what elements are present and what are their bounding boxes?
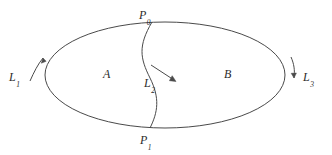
figure-container: P0 P1 L1 L2 L3 A B bbox=[0, 0, 332, 155]
curve-l1-subscript: 1 bbox=[16, 80, 20, 89]
l2-arrow-line bbox=[151, 65, 174, 80]
curve-label-l1: L1 bbox=[9, 68, 19, 87]
curve-l2-base: L bbox=[144, 76, 151, 90]
point-p1-subscript: 1 bbox=[148, 143, 152, 152]
curve-l3-base: L bbox=[303, 70, 310, 84]
point-p0-base: P bbox=[139, 8, 146, 22]
point-p1-base: P bbox=[140, 133, 147, 147]
point-label-p1: P1 bbox=[140, 131, 151, 150]
region-label-a: A bbox=[103, 68, 110, 80]
ellipse-boundary bbox=[45, 22, 285, 128]
l3-arrowhead-icon bbox=[291, 73, 296, 78]
curve-l1-base: L bbox=[9, 70, 16, 84]
curve-l3-subscript: 3 bbox=[310, 80, 314, 89]
diagram-canvas bbox=[0, 0, 332, 155]
point-p0-subscript: 0 bbox=[147, 18, 151, 27]
l1-arrow-curve bbox=[30, 58, 43, 81]
l2-arrowhead-icon bbox=[169, 76, 176, 82]
curve-l2-subscript: 2 bbox=[151, 86, 155, 95]
region-label-b: B bbox=[224, 68, 231, 80]
point-label-p0: P0 bbox=[139, 6, 150, 25]
curve-label-l3: L3 bbox=[303, 68, 313, 87]
curve-label-l2: L2 bbox=[144, 74, 154, 93]
